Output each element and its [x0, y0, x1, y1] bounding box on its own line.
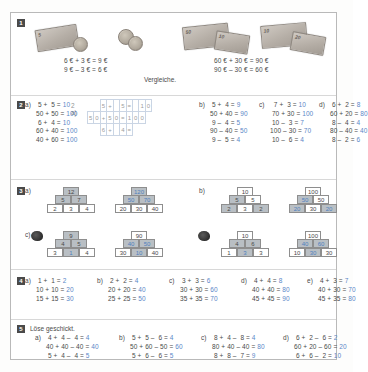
pyramid-cell[interactable]: 10	[131, 248, 147, 257]
equation-answer[interactable]: 100	[64, 136, 77, 143]
overlay-grid-row: 5+5=10	[88, 100, 152, 112]
equation-answer[interactable]: 8	[277, 277, 283, 284]
equation-answer[interactable]: 100	[64, 127, 77, 134]
equation-answer[interactable]: 20	[337, 343, 346, 350]
equation-answer[interactable]: 9	[250, 352, 256, 359]
equation-answer[interactable]: 5	[235, 119, 241, 126]
equation-expression: 70 + 30 =	[270, 110, 300, 117]
equation-answer[interactable]: 4	[133, 277, 139, 284]
pyramid-cell[interactable]: 20	[289, 204, 305, 213]
equation-row: 60 + 20 = 80	[330, 110, 368, 119]
equation-answer[interactable]: 10	[332, 352, 341, 359]
equation-answer[interactable]: 2	[61, 277, 67, 284]
pyramid-cell[interactable]: 4	[79, 248, 95, 257]
pyramid-cell[interactable]: 3	[63, 204, 79, 213]
overlay-grid-cell[interactable]: =	[126, 124, 133, 136]
equation-answer[interactable]: 7	[298, 119, 304, 126]
equation-expression: 25 + 25 =	[108, 295, 136, 302]
number-pyramid: 1046133	[221, 231, 269, 257]
pyramid-cell[interactable]: 30	[115, 248, 131, 257]
equation-row: 30 + 30 = 60	[180, 286, 218, 295]
equation-answer[interactable]: 40	[136, 286, 145, 293]
equation-answer[interactable]: 90	[238, 110, 247, 117]
overlay-grid-cell[interactable]: 0	[145, 100, 151, 112]
equation-answer[interactable]: 10	[61, 101, 70, 108]
equation-row: 40 + 60 = 100	[36, 136, 77, 145]
equation-row: 9 – 5 = 4	[210, 136, 240, 145]
equation-row: 50 + 60 – 50 = 60	[130, 343, 183, 352]
equation-answer[interactable]: 30	[64, 295, 73, 302]
equation-row: 7 + 3 = 10	[270, 101, 306, 110]
equation-answer[interactable]: 40	[89, 343, 98, 350]
pyramid-cell[interactable]: 3	[237, 248, 253, 257]
equation-answer[interactable]: 4	[355, 119, 361, 126]
equation-expression: 35 + 35 =	[180, 295, 208, 302]
equation-answer[interactable]: 9	[235, 101, 241, 108]
pyramid-cell[interactable]: 20	[115, 204, 131, 213]
task-3-section: 3 a)12572341205070203040b)10552321005050…	[11, 183, 336, 267]
pyramid-cell[interactable]: 3	[237, 204, 253, 213]
pyramid-cell[interactable]: 20	[321, 204, 337, 213]
task-1-left-equation-2: 9 € – 3 € = 6 €	[64, 66, 107, 75]
pyramid-cell[interactable]: 40	[147, 248, 163, 257]
equation-answer[interactable]: 6	[355, 136, 361, 143]
pyramid-cell[interactable]: 30	[305, 204, 321, 213]
pyramid-cell[interactable]: 2	[253, 204, 269, 213]
equation-answer[interactable]: 4	[84, 334, 90, 341]
pyramid-row: 103030	[289, 248, 337, 257]
pyramid-cell[interactable]: 40	[147, 204, 163, 213]
equation-answer[interactable]: 8	[355, 101, 361, 108]
equation-answer[interactable]: 4	[250, 334, 256, 341]
equation-answer[interactable]: 4	[298, 136, 304, 143]
pyramid-cell[interactable]: 3	[253, 248, 269, 257]
equation-answer[interactable]: 7	[343, 277, 349, 284]
equation-row: 20 + 20 = 40	[108, 286, 146, 295]
equation-answer[interactable]: 4	[235, 136, 241, 143]
pyramid-cell[interactable]: 3	[47, 248, 63, 257]
pyramid-cell[interactable]: 1	[63, 248, 79, 257]
equation-answer[interactable]: 80	[255, 343, 264, 350]
equation-answer[interactable]: 90	[280, 295, 289, 302]
pyramid-cell[interactable]: 30	[305, 248, 321, 257]
equation-expression: 6 + 6 – 2 =	[294, 352, 332, 359]
pyramid-row: 234	[47, 204, 95, 213]
equation-answer[interactable]: 5	[84, 352, 90, 359]
equation-expression: 50 + 50 =	[36, 110, 64, 117]
equation-answer[interactable]: 80	[358, 110, 367, 117]
equation-answer[interactable]: 40	[358, 127, 367, 134]
equation-answer[interactable]: 70	[346, 286, 355, 293]
pyramid-cell[interactable]: 2	[221, 204, 237, 213]
equation-answer[interactable]: 10	[297, 101, 306, 108]
overlay-grid-row: 50+50=100	[88, 112, 152, 124]
pyramid-cell[interactable]: 4	[79, 204, 95, 213]
equation-answer[interactable]: 70	[208, 295, 217, 302]
equation-answer[interactable]: 5	[168, 352, 174, 359]
equation-answer[interactable]: 50	[238, 127, 247, 134]
equation-answer[interactable]: 80	[346, 295, 355, 302]
equation-answer[interactable]: 50	[136, 295, 145, 302]
pyramid-cell[interactable]: 30	[321, 248, 337, 257]
equation-answer[interactable]: 20	[64, 286, 73, 293]
pyramid-cell[interactable]: 2	[47, 204, 63, 213]
equation-answer[interactable]: 2	[332, 334, 338, 341]
pyramid-row: 314	[47, 248, 95, 257]
pyramid-cell[interactable]: 10	[289, 248, 305, 257]
overlay-grid-cell[interactable]: 0	[139, 112, 145, 124]
equation-answer[interactable]: 6	[205, 277, 211, 284]
equation-expression: 1 + 1 =	[36, 277, 61, 284]
equation-answer[interactable]: 70	[302, 127, 311, 134]
divider-2	[11, 179, 336, 180]
equation-answer[interactable]: 60	[208, 286, 217, 293]
equation-answer[interactable]: 60	[173, 343, 182, 350]
equation-row: 5 + 4 = 9	[210, 101, 240, 110]
equation-answer[interactable]: 10	[61, 119, 70, 126]
pyramid-cell[interactable]: 1	[221, 248, 237, 257]
pyramid-row: 232	[221, 204, 269, 213]
equation-answer[interactable]: 4	[168, 334, 174, 341]
equation-answer[interactable]: 100	[300, 110, 313, 117]
equation-answer[interactable]: 80	[280, 286, 289, 293]
equation-expression: 80 + 40 – 40 =	[212, 343, 255, 350]
equation-expression: 45 + 35 =	[318, 295, 346, 302]
pyramid-cell[interactable]: 30	[131, 204, 147, 213]
